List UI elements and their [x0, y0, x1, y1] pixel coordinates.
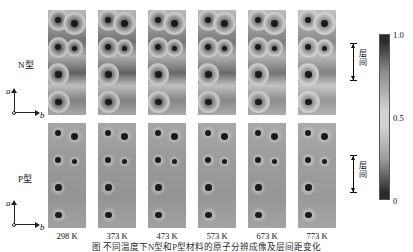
heatmap-panel-N型-298K — [48, 10, 86, 115]
atom-column — [105, 71, 112, 78]
bracket-arrow-up-n — [351, 44, 355, 48]
atom-column — [221, 20, 228, 27]
colorbar-tick-bottom: 0 — [393, 196, 397, 206]
atom-column — [55, 184, 62, 191]
atom-column — [321, 133, 328, 140]
atom-column — [221, 133, 228, 140]
interlayer-bracket-p — [350, 152, 357, 196]
interlayer-label-n: 层 间 — [358, 50, 367, 67]
atom-column — [305, 212, 312, 219]
axis-origin-p — [12, 223, 16, 227]
axis-indicator-n-type: a b — [6, 84, 50, 118]
atom-column — [205, 212, 212, 219]
bracket-arrow-down-n — [351, 76, 355, 80]
atom-column — [305, 71, 312, 78]
atom-column — [255, 212, 262, 219]
atom-column — [205, 184, 212, 191]
axis-origin-n — [12, 111, 16, 115]
colorbar — [379, 34, 390, 200]
axis-a-label-n: a — [6, 86, 11, 96]
heatmap-panel-P型-473K — [148, 123, 186, 228]
atom-column — [205, 99, 212, 106]
axis-indicator-p-type: a b — [6, 196, 50, 230]
atom-column — [55, 71, 62, 78]
atom-column — [155, 71, 162, 78]
row-label-n-type: N型 — [18, 58, 34, 71]
atom-column — [271, 133, 278, 140]
axis-b-line-p — [14, 224, 36, 225]
atom-column — [121, 133, 128, 140]
atom-column — [171, 133, 178, 140]
atom-column — [271, 20, 278, 27]
heatmap-panel-P型-773K — [298, 123, 336, 228]
heatmap-panel-N型-573K — [198, 10, 236, 115]
interlayer-char2-n: 间 — [358, 59, 367, 68]
atom-column — [105, 212, 112, 219]
atom-column — [71, 20, 78, 27]
heatmap-panel-N型-373K — [98, 10, 136, 115]
axis-a-arrow-p — [11, 200, 17, 205]
atom-column — [121, 20, 128, 27]
atom-column — [205, 71, 212, 78]
heatmap-panel-P型-298K — [48, 123, 86, 228]
interlayer-bracket-n — [350, 40, 357, 84]
interlayer-char2-p: 间 — [358, 171, 367, 180]
heatmap-panel-N型-773K — [298, 10, 336, 115]
atom-column — [171, 20, 178, 27]
atom-column — [155, 212, 162, 219]
atom-column — [155, 184, 162, 191]
axis-b-line-n — [14, 112, 36, 113]
bracket-arrow-down-p — [351, 188, 355, 192]
atom-column — [255, 184, 262, 191]
atom-column — [305, 184, 312, 191]
interlayer-label-p: 层 间 — [358, 162, 367, 179]
heatmap-panel-N型-473K — [148, 10, 186, 115]
axis-a-arrow-n — [11, 88, 17, 93]
atom-column — [55, 99, 62, 106]
colorbar-tick-mid: 0.5 — [393, 113, 404, 123]
bracket-arrow-up-p — [351, 156, 355, 160]
atom-column — [71, 133, 78, 140]
atom-column — [321, 20, 328, 27]
figure-caption: 图 不同温度下N型和P型材料的原子分辨成像及层间距变化 — [0, 240, 413, 252]
atom-column — [55, 212, 62, 219]
axis-a-label-p: a — [6, 198, 11, 208]
colorbar-tick-top: 1.0 — [393, 30, 404, 40]
atom-column — [105, 184, 112, 191]
axis-a-line-n — [14, 92, 15, 113]
atom-column — [255, 71, 262, 78]
atom-column — [255, 99, 262, 106]
heatmap-panel-P型-673K — [248, 123, 286, 228]
axis-b-arrow-p — [35, 222, 40, 228]
atom-column — [305, 99, 312, 106]
axis-b-label-n: b — [40, 110, 45, 120]
axis-a-line-p — [14, 204, 15, 225]
axis-b-arrow-n — [35, 110, 40, 116]
atom-column — [155, 99, 162, 106]
heatmap-panel-P型-373K — [98, 123, 136, 228]
heatmap-panel-P型-573K — [198, 123, 236, 228]
heatmap-panel-N型-673K — [248, 10, 286, 115]
row-label-p-type: P型 — [18, 172, 33, 185]
atom-column — [105, 99, 112, 106]
